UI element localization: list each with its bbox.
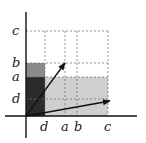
vector-area-diagram: c b a d d a b c [0, 0, 146, 143]
light-gray-region [45, 77, 108, 116]
y-label-d: d [12, 91, 20, 106]
y-label-b: b [12, 55, 20, 70]
dark-region [26, 77, 45, 116]
x-label-d: d [40, 119, 48, 134]
y-label-a: a [12, 69, 20, 84]
x-label-a: a [61, 119, 69, 134]
y-label-c: c [12, 23, 20, 38]
mid-gray-region [26, 63, 45, 77]
x-label-b: b [74, 119, 82, 134]
x-label-c: c [104, 119, 112, 134]
